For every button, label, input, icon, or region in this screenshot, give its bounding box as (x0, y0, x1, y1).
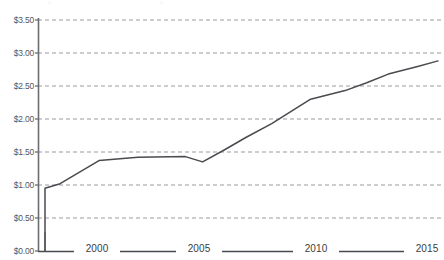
x-tick-label-2005: 2005 (176, 243, 222, 254)
line-chart: $3.50 $3.00 $2.50 $2.00 $1.50 $1.00 $0.5… (0, 0, 444, 260)
x-tick-label-2010: 2010 (293, 243, 339, 254)
x-tick-label-2015: 2015 (404, 243, 444, 254)
data-series-line (45, 61, 438, 251)
gridlines (38, 20, 444, 218)
x-tick-label-2000: 2000 (74, 243, 120, 254)
plot-area (0, 0, 444, 260)
